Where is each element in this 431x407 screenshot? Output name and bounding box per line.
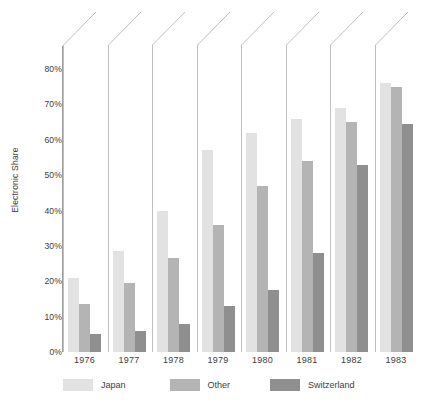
bar-other-1978	[168, 258, 179, 352]
y-tick-label: 30%	[34, 241, 62, 251]
bar-chart: Electronic Share 0%10%20%30%40%50%60%70%…	[0, 0, 431, 407]
legend-swatch-other	[170, 379, 200, 391]
legend-label-switzerland: Switzerland	[308, 380, 355, 390]
bar-switzerland-1979	[224, 306, 235, 352]
bar-switzerland-1976	[90, 334, 101, 352]
bar-switzerland-1982	[357, 165, 368, 352]
legend-label-other: Other	[208, 380, 231, 390]
y-tick-label: 20%	[34, 276, 62, 286]
x-tick-label: 1983	[366, 355, 426, 365]
bar-other-1982	[346, 122, 357, 352]
bar-japan-1982	[335, 108, 346, 352]
bar-group	[291, 0, 324, 352]
bar-japan-1983	[380, 83, 391, 352]
bar-switzerland-1981	[313, 253, 324, 352]
y-tick-label: 40%	[34, 206, 62, 216]
plot-area	[63, 0, 423, 352]
y-tick-label: 10%	[34, 312, 62, 322]
bar-japan-1976	[68, 278, 79, 352]
y-axis-title: Electronic Share	[10, 95, 20, 265]
bar-switzerland-1983	[402, 124, 413, 352]
legend: Japan Other Switzerland	[63, 379, 355, 391]
y-tick-label: 60%	[34, 135, 62, 145]
bar-other-1983	[391, 87, 402, 352]
bar-switzerland-1980	[268, 290, 279, 352]
bar-other-1979	[213, 225, 224, 352]
bar-group	[380, 0, 413, 352]
bar-other-1977	[124, 283, 135, 352]
y-tick-label: 70%	[34, 99, 62, 109]
bar-japan-1980	[246, 133, 257, 352]
bar-other-1981	[302, 161, 313, 352]
bar-group	[246, 0, 279, 352]
bar-other-1976	[79, 304, 90, 352]
legend-label-japan: Japan	[101, 380, 126, 390]
legend-item-other: Other	[170, 379, 231, 391]
bar-switzerland-1978	[179, 324, 190, 352]
bar-japan-1977	[113, 251, 124, 352]
bar-japan-1981	[291, 119, 302, 352]
bar-group	[335, 0, 368, 352]
legend-item-japan: Japan	[63, 379, 126, 391]
bar-group	[157, 0, 190, 352]
y-axis: Electronic Share 0%10%20%30%40%50%60%70%…	[0, 0, 62, 407]
legend-item-switzerland: Switzerland	[270, 379, 355, 391]
bar-group	[202, 0, 235, 352]
bar-other-1980	[257, 186, 268, 352]
bar-japan-1978	[157, 211, 168, 353]
bar-switzerland-1977	[135, 331, 146, 352]
legend-swatch-japan	[63, 379, 93, 391]
legend-swatch-switzerland	[270, 379, 300, 391]
bar-japan-1979	[202, 150, 213, 352]
bar-group	[113, 0, 146, 352]
bar-group	[68, 0, 101, 352]
y-tick-label: 50%	[34, 170, 62, 180]
y-tick-label: 80%	[34, 64, 62, 74]
